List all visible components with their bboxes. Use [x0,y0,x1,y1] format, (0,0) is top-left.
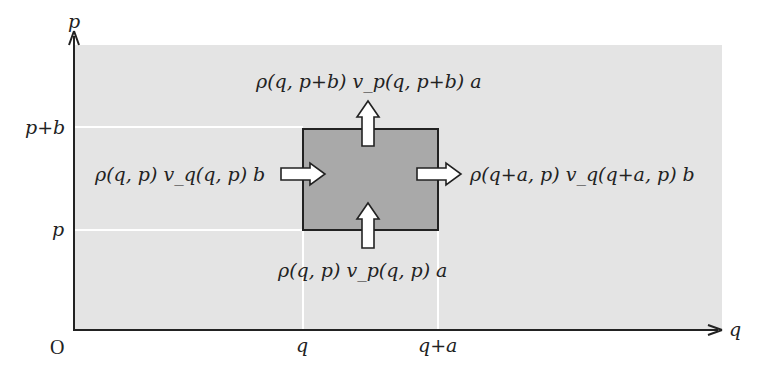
flux-label-bottom: ρ(q, p) v_p(q, p) a [277,259,447,282]
flux-label-left: ρ(q, p) v_q(q, p) b [94,163,265,186]
x-axis-label: q [729,318,741,340]
flux-label-right: ρ(q+a, p) v_q(q+a, p) b [469,163,695,186]
y-axis-label: p [68,10,80,32]
phase-space-flux-diagram: p q O p+b p q q+a ρ(q, p+b) v_p(q, p+b) … [0,0,759,384]
origin-label: O [50,336,64,358]
x-tick-q-plus-a: q+a [418,334,457,356]
x-tick-q: q [296,334,308,356]
flux-label-top: ρ(q, p+b) v_p(q, p+b) a [255,70,482,93]
y-tick-p-plus-b: p+b [25,116,65,138]
y-tick-p: p [52,218,64,240]
